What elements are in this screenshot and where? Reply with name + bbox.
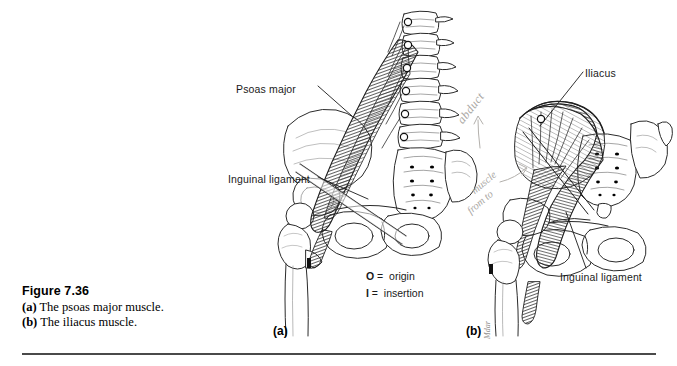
panel-b-artwork	[488, 72, 672, 336]
caption-marker-b: (b)	[22, 315, 37, 329]
caption-text-b: The iliacus	[37, 315, 95, 329]
legend-row-insertion: I = insertion	[366, 285, 424, 302]
callout-inguinal-ligament-b: Inguinal ligament	[560, 271, 642, 283]
legend-meaning-insertion: insertion	[384, 287, 424, 299]
legend-row-origin: O = origin	[366, 268, 424, 285]
caption-text-mid: muscle.	[125, 300, 164, 314]
caption-text-end: muscle.	[99, 315, 138, 329]
legend-equals-insertion: =	[372, 287, 378, 299]
ilium-right-a	[445, 150, 477, 202]
femur-b	[488, 220, 523, 336]
legend-equals-origin: =	[377, 270, 383, 282]
caption-marker-a: (a)	[22, 300, 37, 314]
insertion-marker-b	[489, 264, 493, 274]
insertion-marker-a	[307, 258, 311, 268]
caption-text-a: The psoas major	[37, 300, 123, 314]
legend-key-origin: O	[366, 270, 374, 282]
figure-page: Psoas major Inguinal ligament Iliacus In…	[0, 0, 677, 366]
callout-iliacus: Iliacus	[585, 67, 616, 79]
panel-label-a: (a)	[273, 324, 288, 338]
legend-key-insertion: I	[366, 287, 369, 299]
legend-meaning-origin: origin	[389, 270, 415, 282]
legend: O = origin I = insertion	[366, 268, 424, 302]
ilium-right-b	[630, 121, 672, 178]
callout-psoas-major: Psoas major	[236, 83, 296, 95]
lumbar-vertebral-column	[398, 11, 460, 149]
panel-label-b: (b)	[466, 324, 481, 338]
figure-caption-text: (a) The psoas major muscle. (b) The ilia…	[22, 300, 172, 329]
page-divider-rule	[22, 353, 656, 355]
figure-number: Figure 7.36	[22, 284, 172, 298]
callout-inguinal-ligament-a: Inguinal ligament	[228, 173, 310, 185]
artist-signature: Mdar	[483, 321, 492, 339]
figure-caption: Figure 7.36 (a) The psoas major muscle. …	[22, 284, 172, 329]
